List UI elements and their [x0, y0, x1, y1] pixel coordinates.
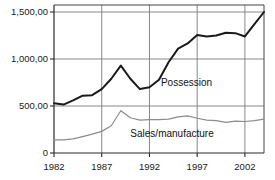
y-axis-label-0: 0 [43, 147, 48, 158]
series-label-sales-manufacture: Sales/manufacture [130, 128, 213, 139]
chart-plot-area [0, 0, 275, 180]
line-chart: 1,500,001,000,00500,000 1982198719921997… [0, 0, 275, 180]
x-axis-label-1997: 1997 [175, 161, 219, 172]
y-axis-label-100000: 1,000,00 [11, 53, 48, 64]
series-lines [54, 12, 264, 140]
y-axis-label-50000: 500,00 [19, 100, 48, 111]
y-axis-label-150000: 1,500,00 [11, 6, 48, 17]
series-label-possession: Possession [161, 77, 212, 88]
x-axis-label-1987: 1987 [80, 161, 124, 172]
x-axis-label-1992: 1992 [127, 161, 171, 172]
x-axis-label-2002: 2002 [223, 161, 267, 172]
series-line-possession [54, 12, 264, 105]
x-axis-label-1982: 1982 [32, 161, 76, 172]
